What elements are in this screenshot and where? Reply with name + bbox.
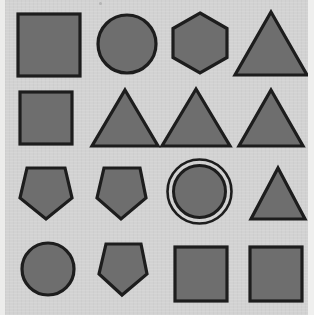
triangle-shape xyxy=(160,87,232,148)
pentagon-shape xyxy=(18,165,74,221)
square-shape xyxy=(16,12,82,78)
shape-cell-r4c3 xyxy=(173,245,229,303)
pentagon-shape xyxy=(97,241,149,297)
square-shape xyxy=(18,90,74,146)
square-shape xyxy=(173,245,229,303)
shape-cell-r4c4 xyxy=(248,245,304,303)
shape-cell-r3c4 xyxy=(249,166,307,221)
hexagon-shape xyxy=(171,11,229,75)
square-shape xyxy=(248,245,304,303)
pentagon-shape xyxy=(95,165,148,221)
shape-cell-r3c3 xyxy=(165,157,234,226)
left-page-edge xyxy=(0,0,5,315)
circle-with-ring-shape xyxy=(165,157,234,226)
triangle-shape xyxy=(90,88,160,148)
shape-cell-r2c1 xyxy=(18,90,74,146)
image-canvas xyxy=(0,0,314,315)
shape-cell-r2c2 xyxy=(90,88,160,148)
triangle-shape xyxy=(237,88,305,148)
shape-cell-r1c2 xyxy=(96,13,158,75)
shape-cell-r1c4 xyxy=(233,10,309,77)
right-page-edge xyxy=(308,0,314,315)
triangle-shape xyxy=(249,166,307,221)
shape-cell-r4c2 xyxy=(97,241,149,297)
shape-panel xyxy=(5,0,308,315)
triangle-shape xyxy=(233,10,309,77)
shape-cell-r1c3 xyxy=(171,11,229,75)
circle-shape xyxy=(96,13,158,75)
paper-speck xyxy=(99,2,102,5)
shape-cell-r1c1 xyxy=(16,12,82,78)
shape-cell-r2c3 xyxy=(160,87,232,148)
shape-cell-r3c1 xyxy=(18,165,74,221)
shape-cell-r2c4 xyxy=(237,88,305,148)
shape-cell-r4c1 xyxy=(20,241,76,297)
circle-shape xyxy=(20,241,76,297)
shape-cell-r3c2 xyxy=(95,165,148,221)
